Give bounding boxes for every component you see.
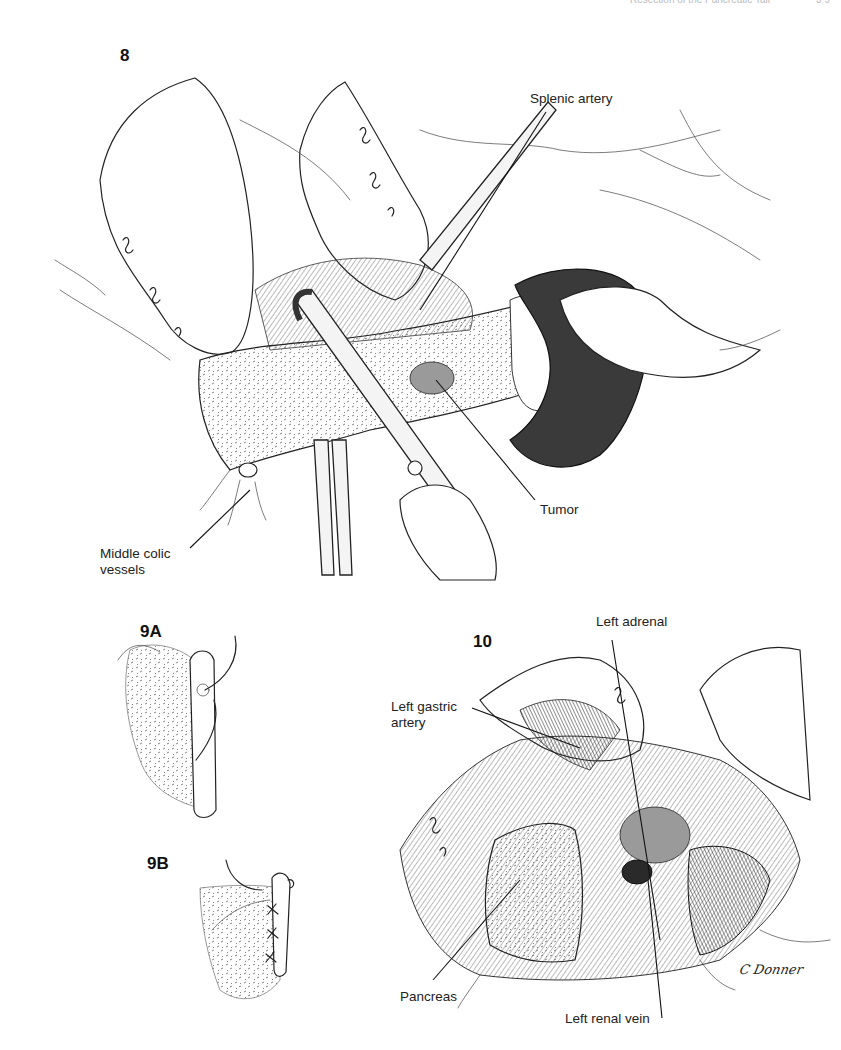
label-tumor: Tumor	[540, 502, 579, 518]
figure-number-9a: 9A	[140, 622, 162, 642]
label-left-adrenal: Left adrenal	[596, 614, 667, 630]
figure-number-9b: 9B	[147, 854, 169, 874]
figure-8-drawing	[55, 78, 780, 580]
label-splenic-artery: Splenic artery	[530, 91, 613, 107]
label-left-renal-vein: Left renal vein	[565, 1011, 650, 1027]
label-left-gastric-artery: Left gastric artery	[391, 699, 457, 731]
figure-9a-drawing	[118, 636, 236, 818]
label-pancreas: Pancreas	[400, 989, 457, 1005]
figure-9b-drawing	[200, 860, 294, 999]
artist-signature: C Donner	[738, 962, 804, 977]
figure-number-8: 8	[120, 46, 129, 66]
figure-number-10: 10	[473, 632, 492, 652]
surgical-illustration	[0, 0, 841, 1050]
label-middle-colic-vessels: Middle colic vessels	[100, 546, 171, 578]
leader-middle-colic	[190, 490, 250, 548]
